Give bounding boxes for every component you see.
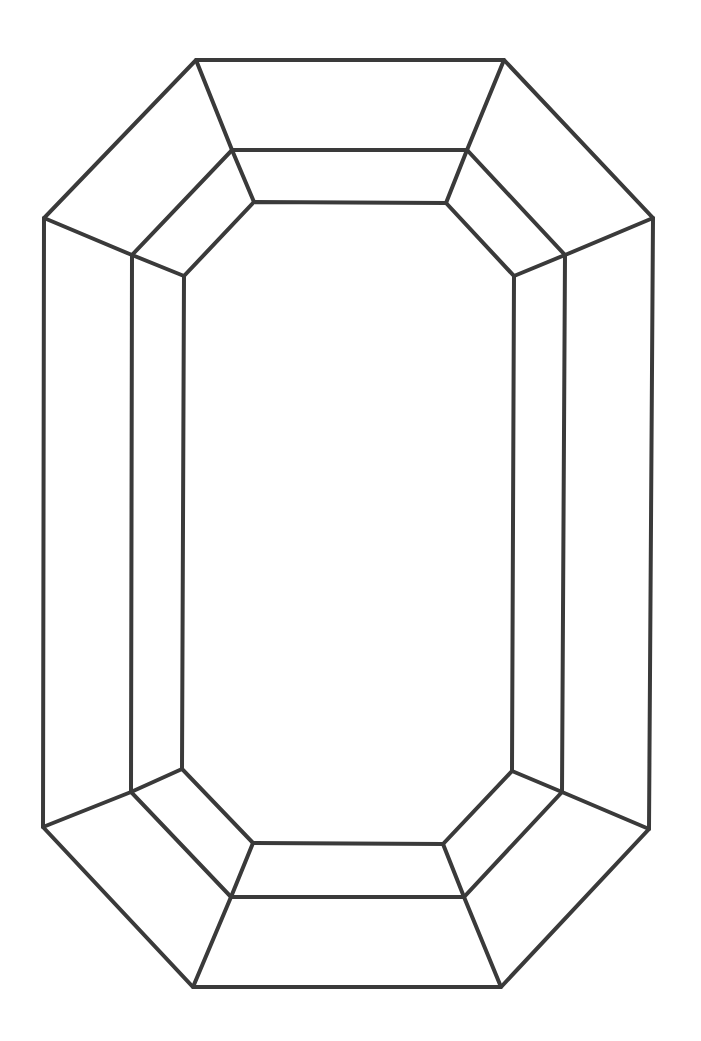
- facet-edge-line: [514, 255, 565, 276]
- facet-edge-line: [231, 843, 253, 897]
- gem-table-facet-outline: [182, 202, 514, 844]
- facet-edge-line: [132, 255, 184, 276]
- facet-edge-line: [467, 60, 504, 150]
- facet-edge-line: [512, 771, 562, 792]
- facet-edge-line: [443, 844, 464, 897]
- facet-edge-line: [562, 792, 649, 829]
- facet-edge-line: [44, 218, 132, 255]
- facet-edge-line: [43, 792, 131, 827]
- facet-edge-line: [193, 897, 231, 987]
- facet-edge-line: [446, 150, 467, 203]
- facet-edge-line: [464, 897, 501, 987]
- facet-edge-line: [196, 60, 232, 150]
- emerald-cut-gem-diagram: [0, 0, 701, 1041]
- facet-edge-line: [565, 218, 653, 255]
- facet-edge-line: [232, 150, 254, 202]
- facet-edge-line: [131, 769, 182, 792]
